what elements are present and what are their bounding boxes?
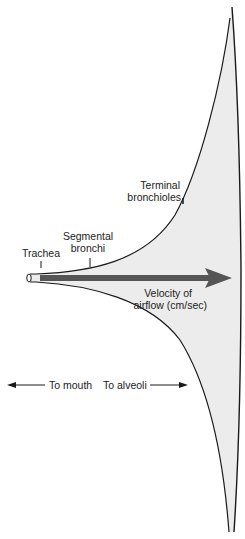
to-alveoli-label: To alveoli <box>103 379 147 391</box>
to-mouth-arrow-head <box>7 382 16 388</box>
segmental-bronchi-label-1: Segmental <box>63 230 113 242</box>
velocity-arrow-shaft <box>40 275 210 281</box>
terminal-bronchioles-label-1: Terminal <box>140 179 180 191</box>
airway-velocity-diagram: Trachea Segmental bronchi Terminal bronc… <box>0 0 245 539</box>
terminal-bronchioles-label-2: bronchioles <box>127 191 181 203</box>
trachea-label: Trachea <box>22 247 60 259</box>
trachea-opening <box>27 274 31 282</box>
to-mouth-label: To mouth <box>49 379 92 391</box>
segmental-bronchi-label-2: bronchi <box>71 242 105 254</box>
velocity-label-2: airflow (cm/sec) <box>133 299 207 311</box>
to-alveoli-arrow-head <box>179 382 188 388</box>
velocity-label-1: Velocity of <box>144 287 192 299</box>
